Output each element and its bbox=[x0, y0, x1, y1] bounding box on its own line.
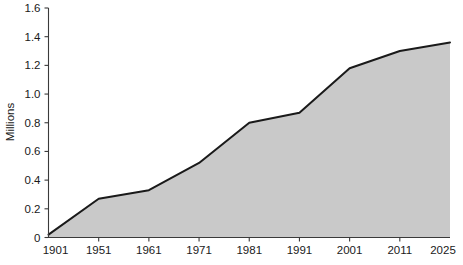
x-tick-label: 1951 bbox=[86, 244, 112, 256]
x-tick-label: 1981 bbox=[236, 244, 262, 256]
y-tick-label: 1.6 bbox=[25, 2, 41, 14]
x-tick-label: 2011 bbox=[387, 244, 412, 256]
x-tick-label: 1971 bbox=[186, 244, 212, 256]
y-tick-label: 1.0 bbox=[25, 88, 41, 100]
x-tick-label: 2025 bbox=[430, 244, 456, 256]
y-tick-label: 0.8 bbox=[25, 117, 41, 129]
y-tick-label: 0 bbox=[34, 232, 40, 244]
y-tick-label: 1.2 bbox=[25, 59, 41, 71]
y-axis-ticks: 00.20.40.60.81.01.21.41.6 bbox=[25, 2, 49, 244]
y-tick-label: 0.4 bbox=[25, 174, 42, 186]
y-tick-label: 0.6 bbox=[25, 145, 41, 157]
area-chart: 00.20.40.60.81.01.21.41.6 19011951196119… bbox=[0, 0, 463, 265]
chart-canvas: 00.20.40.60.81.01.21.41.6 19011951196119… bbox=[0, 0, 463, 265]
x-tick-label: 2001 bbox=[337, 244, 363, 256]
x-tick-label: 1961 bbox=[136, 244, 162, 256]
y-tick-label: 1.4 bbox=[25, 31, 42, 43]
x-tick-label: 1991 bbox=[287, 244, 313, 256]
y-tick-label: 0.2 bbox=[25, 203, 41, 215]
x-tick-label: 1901 bbox=[43, 244, 69, 256]
x-axis-ticks: 190119511961197119811991200120112025 bbox=[43, 238, 456, 256]
y-axis-title: Millions bbox=[4, 103, 16, 142]
